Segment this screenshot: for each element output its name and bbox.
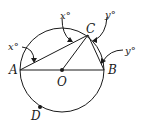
label-angle-a: x° — [8, 41, 19, 52]
radius-oc — [62, 35, 88, 70]
label-angle-c-right: y° — [104, 9, 116, 20]
chord-ac — [20, 35, 88, 70]
angle-c-right-pointer — [95, 17, 107, 40]
label-c: C — [86, 22, 95, 36]
label-angle-c-left: x° — [60, 10, 71, 21]
label-b: B — [107, 63, 117, 77]
point-o — [60, 68, 64, 72]
label-angle-b: y° — [124, 45, 136, 56]
label-a: A — [8, 63, 18, 77]
label-o: O — [57, 75, 67, 89]
circle-diagram: A B C O D x° x° y° y° — [0, 0, 144, 128]
label-d: D — [30, 109, 41, 123]
angle-b-pointer — [103, 50, 123, 61]
